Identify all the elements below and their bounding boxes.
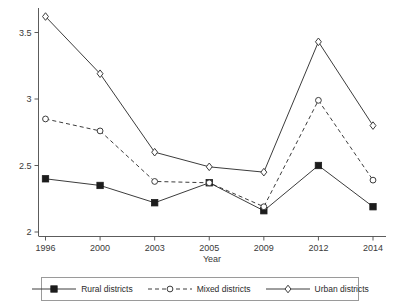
- x-tick-label: 2009: [254, 243, 274, 253]
- x-tick-label: 2003: [145, 243, 165, 253]
- legend-label: Rural districts: [81, 284, 132, 294]
- data-point-mixed-districts-2005: [206, 180, 212, 186]
- data-point-rural-districts-2003: [151, 200, 157, 206]
- y-tick-label: 3: [26, 94, 31, 104]
- x-tick-label: 2000: [90, 243, 110, 253]
- data-point-mixed-districts-2012: [316, 97, 322, 103]
- legend-swatch-open-circle-icon: [147, 283, 193, 295]
- y-axis-ticks: 22.533.5: [19, 28, 39, 238]
- chart-legend: Rural districtsMixed districtsUrban dist…: [41, 277, 359, 301]
- data-point-urban-districts-2009: [261, 168, 267, 176]
- series-markers-group: [42, 13, 376, 214]
- series-line-mixed-districts: [46, 100, 374, 206]
- series-line-urban-districts: [46, 17, 374, 173]
- legend-item-urban-districts[interactable]: Urban districts: [265, 283, 369, 295]
- data-point-rural-districts-2014: [370, 204, 376, 210]
- legend-marker-filled-square-icon: [51, 286, 57, 292]
- y-tick-label: 2: [26, 227, 31, 237]
- y-tick-label: 3.5: [19, 28, 32, 38]
- data-point-mixed-districts-2000: [97, 128, 103, 134]
- data-point-rural-districts-2012: [315, 162, 321, 168]
- axis-group: [39, 8, 387, 237]
- line-chart-figure: 22.533.5 1996200020032005200920122014 Ye…: [0, 0, 401, 308]
- y-tick-label: 2.5: [19, 161, 32, 171]
- data-point-rural-districts-2000: [97, 182, 103, 188]
- legend-marker-open-diamond-icon: [285, 285, 291, 293]
- data-point-mixed-districts-2003: [152, 179, 158, 185]
- data-point-mixed-districts-2009: [261, 204, 267, 210]
- data-point-urban-districts-2005: [206, 163, 212, 171]
- x-tick-label: 2014: [363, 243, 383, 253]
- legend-swatch-open-diamond-icon: [265, 283, 311, 295]
- x-axis-ticks: 1996200020032005200920122014: [35, 237, 383, 254]
- data-point-mixed-districts-2014: [370, 177, 376, 183]
- legend-label: Mixed districts: [197, 284, 251, 294]
- data-point-rural-districts-1996: [42, 176, 48, 182]
- x-tick-label: 2005: [199, 243, 219, 253]
- legend-item-mixed-districts[interactable]: Mixed districts: [147, 283, 251, 295]
- legend-swatch-filled-square-icon: [31, 283, 77, 295]
- x-tick-label: 1996: [35, 243, 55, 253]
- plot-area: 22.533.5 1996200020032005200920122014 Ye…: [0, 0, 401, 308]
- series-line-rural-districts: [46, 166, 374, 211]
- legend-marker-open-circle-icon: [167, 286, 173, 292]
- x-tick-label: 2012: [308, 243, 328, 253]
- legend-item-rural-districts[interactable]: Rural districts: [31, 283, 132, 295]
- legend-label: Urban districts: [315, 284, 369, 294]
- data-point-mixed-districts-1996: [43, 116, 49, 122]
- x-axis-title: Year: [203, 254, 221, 264]
